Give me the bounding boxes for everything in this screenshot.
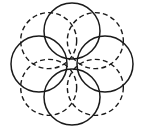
rosette-diagram: Rosette of eight overlapping circles Eig… (0, 0, 145, 131)
circle-top-left (21, 13, 77, 69)
circle-bottom-left (21, 59, 77, 115)
circle-top-right (67, 13, 123, 69)
circle-left (11, 36, 67, 92)
figure-canvas: Rosette of eight overlapping circles Eig… (0, 0, 145, 131)
circle-top (44, 3, 100, 59)
circle-right (77, 36, 133, 92)
circle-group (11, 3, 133, 125)
circle-bottom-right (67, 59, 123, 115)
circle-bottom (44, 69, 100, 125)
